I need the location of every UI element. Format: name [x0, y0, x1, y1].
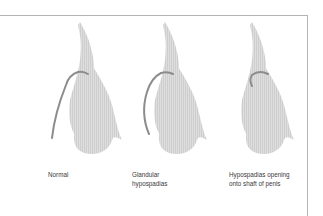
panel-shaft-drawing: [241, 22, 294, 154]
label-glandular-hypospadias: Glandular hypospadias: [132, 170, 167, 188]
label-normal: Normal: [48, 170, 68, 179]
panel-glandular-drawing: [144, 22, 207, 154]
panel-normal-drawing: [52, 22, 122, 154]
label-shaft-hypospadias: Hypospadias opening onto shaft of penis: [229, 170, 290, 188]
